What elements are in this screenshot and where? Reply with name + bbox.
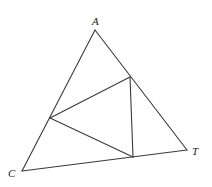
vertex-label-c: C	[8, 167, 16, 179]
side-ct	[22, 150, 187, 171]
inner-side-at-ac	[50, 77, 130, 118]
vertex-label-t: T	[192, 145, 199, 157]
inner-side-ct-at	[130, 77, 133, 157]
vertex-label-a: A	[91, 15, 99, 27]
inner-side-ac-ct	[50, 118, 133, 157]
side-at	[95, 30, 187, 150]
triangle-diagram: A C T	[0, 0, 212, 187]
